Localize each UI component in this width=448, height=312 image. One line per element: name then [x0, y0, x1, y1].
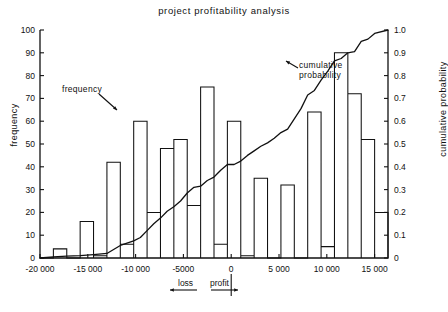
y-tick-label-left: 40 — [9, 162, 35, 172]
y-tick-label-right: 0.9 — [394, 48, 424, 58]
y-tick-label-right: 0.4 — [394, 162, 424, 172]
y-tick-label-left: 20 — [9, 207, 35, 217]
y-tick-label-left: 10 — [9, 230, 35, 240]
y-tick-label-right: 0.8 — [394, 71, 424, 81]
loss-profit-arrows — [99, 61, 298, 296]
y-tick-label-right: 0.6 — [394, 116, 424, 126]
y-tick-label-right: 1.0 — [394, 25, 424, 35]
y-tick-label-right: 0.3 — [394, 185, 424, 195]
y-tick-label-right: 0.1 — [394, 230, 424, 240]
x-tick-label: 15 000 — [345, 264, 405, 274]
y-tick-label-left: 100 — [9, 25, 35, 35]
histogram-bars — [40, 53, 388, 258]
y-tick-label-left: 60 — [9, 116, 35, 126]
y-tick-label-right: 0 — [394, 253, 424, 263]
y-tick-label-left: 50 — [9, 139, 35, 149]
chart-figure: project profitability analysis frequency… — [0, 0, 448, 312]
y-tick-label-left: 80 — [9, 71, 35, 81]
y-tick-label-left: 90 — [9, 48, 35, 58]
y-tick-label-right: 0.2 — [394, 207, 424, 217]
y-tick-label-left: 0 — [9, 253, 35, 263]
y-tick-label-left: 70 — [9, 93, 35, 103]
y-tick-label-right: 0.5 — [394, 139, 424, 149]
y-tick-label-right: 0.7 — [394, 93, 424, 103]
y-tick-label-left: 30 — [9, 185, 35, 195]
